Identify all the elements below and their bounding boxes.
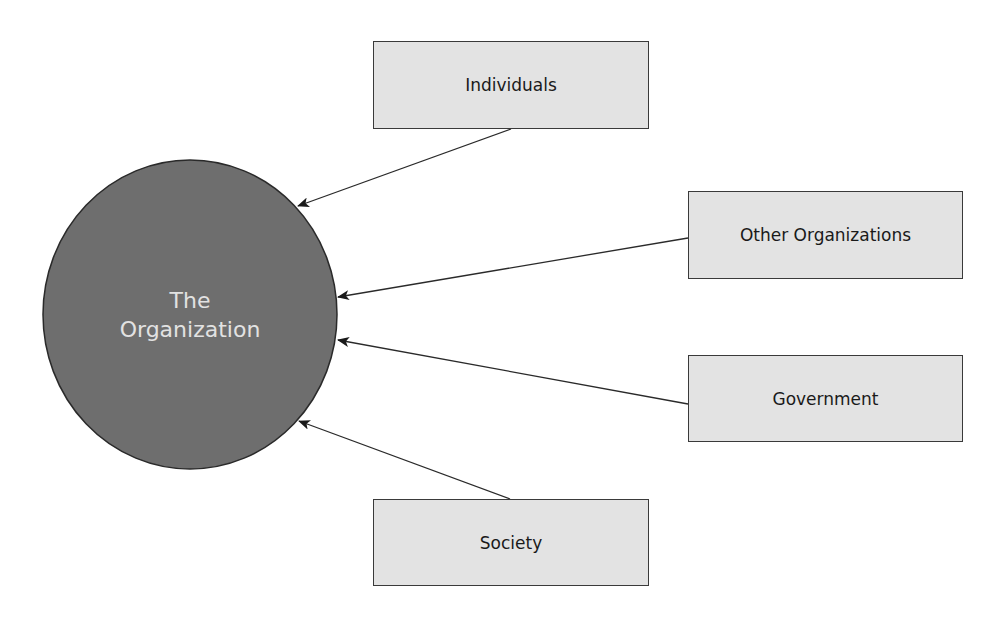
arrow-government — [338, 340, 688, 404]
node-individuals: Individuals — [373, 41, 649, 129]
node-society: Society — [373, 499, 649, 586]
node-label: Government — [772, 389, 878, 409]
node-label: Other Organizations — [740, 225, 911, 245]
node-label: Society — [480, 533, 542, 553]
arrow-other-organizations — [338, 238, 688, 297]
organization-label: The Organization — [43, 160, 337, 469]
organization-label-line2: Organization — [120, 315, 261, 344]
node-government: Government — [688, 355, 963, 442]
node-label: Individuals — [465, 75, 557, 95]
node-other-organizations: Other Organizations — [688, 191, 963, 279]
organization-label-line1: The — [170, 286, 211, 315]
